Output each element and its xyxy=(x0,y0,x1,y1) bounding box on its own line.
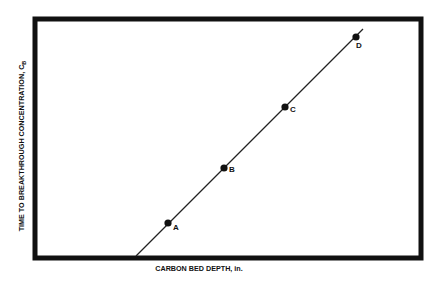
plot-frame xyxy=(35,19,421,258)
data-point-b xyxy=(220,164,227,171)
chart: A B C D CARBON BED DEPTH, in. TIME TO BR… xyxy=(0,0,440,287)
y-axis-label: TIME TO BREAKTHROUGH CONCENTRATION, CB xyxy=(17,61,27,232)
y-axis-label-main: TIME TO BREAKTHROUGH CONCENTRATION, C xyxy=(17,65,26,232)
y-axis-label-subscript: B xyxy=(21,61,27,65)
point-label-b: B xyxy=(229,165,235,174)
x-axis-label: CARBON BED DEPTH, in. xyxy=(155,264,242,273)
point-label-c: C xyxy=(290,105,296,114)
data-point-a xyxy=(164,219,171,226)
point-label-a: A xyxy=(173,223,179,232)
data-point-d xyxy=(352,33,359,40)
point-label-d: D xyxy=(356,41,362,50)
data-point-c xyxy=(281,103,288,110)
